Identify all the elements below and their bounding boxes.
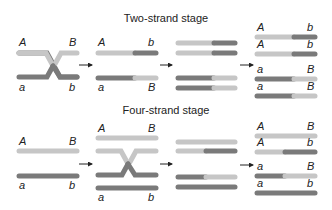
label: b: [148, 36, 154, 48]
label: a: [19, 81, 25, 93]
label: B: [148, 122, 155, 134]
label: a: [98, 191, 104, 203]
label: b: [69, 179, 75, 191]
label: B: [307, 160, 314, 172]
label: B: [148, 81, 155, 93]
label: B: [69, 36, 76, 48]
label: a: [257, 160, 263, 172]
label: a: [19, 179, 25, 191]
label: a: [257, 177, 263, 189]
label: A: [256, 21, 264, 33]
label: A: [256, 136, 264, 148]
label: B: [69, 135, 76, 147]
label: A: [18, 36, 26, 48]
label: b: [307, 21, 313, 33]
label: A: [18, 135, 26, 147]
label: a: [257, 80, 263, 92]
label: b: [307, 38, 313, 50]
four-strand-col1: [19, 151, 77, 176]
two-strand-col1: [19, 53, 77, 77]
two-strand-col2: [98, 53, 156, 78]
label: A: [256, 38, 264, 50]
label: a: [257, 63, 263, 75]
four-strand-title: Four-strand stage: [123, 104, 210, 116]
four-strand-col2: [98, 138, 156, 188]
label: B: [307, 80, 314, 92]
two-strand-col3: [178, 43, 235, 88]
label: B: [307, 63, 314, 75]
label: b: [148, 191, 154, 203]
label: A: [256, 120, 264, 132]
label: b: [307, 136, 313, 148]
label: B: [307, 120, 314, 132]
four-strand-col3: [178, 142, 235, 187]
label: A: [97, 36, 105, 48]
label: b: [307, 177, 313, 189]
crossing-over-diagram: Two-strand stage A B a b A b a B: [0, 0, 332, 210]
two-strand-title: Two-strand stage: [124, 12, 208, 24]
label: b: [69, 81, 75, 93]
label: A: [97, 122, 105, 134]
label: a: [98, 81, 104, 93]
